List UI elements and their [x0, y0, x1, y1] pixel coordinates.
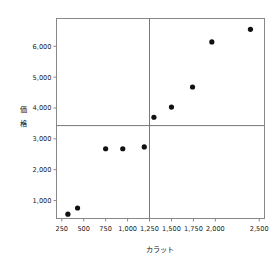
y-tick-label: 5,000	[33, 74, 52, 82]
x-tick-label: 1,250	[140, 225, 159, 233]
data-point	[142, 144, 147, 149]
y-tick-label: 1,000	[33, 197, 52, 205]
y-axis-title-char-1: 価	[20, 105, 27, 114]
data-point	[169, 104, 174, 109]
data-point	[103, 146, 108, 151]
chart-background	[0, 0, 280, 262]
data-point	[209, 39, 214, 44]
y-tick-label: 4,000	[33, 104, 52, 112]
chart-canvas: 2505007501,0001,2501,5001,7502,0002,500 …	[0, 0, 280, 262]
x-tick-label: 1,500	[162, 225, 181, 233]
x-tick-label: 2,000	[206, 225, 225, 233]
x-axis-title: カラット	[146, 245, 174, 254]
y-tick-label: 6,000	[33, 43, 52, 51]
data-point	[190, 84, 195, 89]
x-tick-label: 1,750	[184, 225, 203, 233]
x-tick-label: 250	[55, 225, 68, 233]
x-tick-label: 2,500	[250, 225, 269, 233]
y-axis-title-char-2: 格	[20, 119, 28, 128]
data-point	[151, 115, 156, 120]
y-tick-label: 3,000	[33, 135, 52, 143]
data-point	[120, 146, 125, 151]
data-point	[248, 27, 253, 32]
y-tick-label: 2,000	[33, 166, 52, 174]
data-point	[75, 205, 80, 210]
x-tick-label: 500	[77, 225, 90, 233]
x-tick-label: 1,000	[118, 225, 137, 233]
x-tick-label: 750	[99, 225, 112, 233]
data-point	[65, 212, 70, 217]
scatter-plot-figure: 2505007501,0001,2501,5001,7502,0002,500 …	[0, 0, 280, 262]
